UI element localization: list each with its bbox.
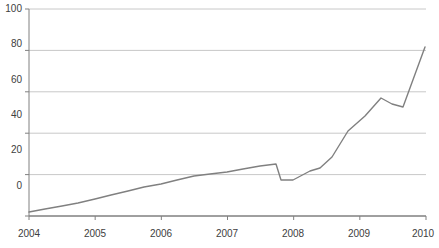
data-series-line — [29, 47, 425, 212]
gridlines — [25, 9, 426, 216]
x-axis-ticks — [29, 216, 426, 220]
